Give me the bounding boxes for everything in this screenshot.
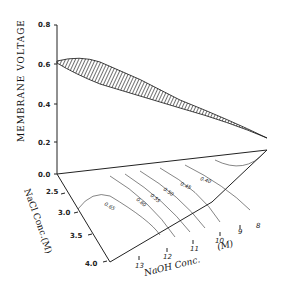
nacl-unit: (M): [39, 236, 54, 255]
svg-text:0.45: 0.45: [180, 180, 193, 190]
svg-text:0.0: 0.0: [38, 171, 51, 179]
svg-text:0.8: 0.8: [38, 21, 51, 29]
z-ticks: 0.8 0.6 0.4 0.2 0.0: [38, 21, 57, 179]
svg-text:0.55: 0.55: [149, 192, 161, 204]
svg-text:9: 9: [238, 228, 243, 236]
surface-plot: 0.8 0.6 0.4 0.2 0.0 MEMBRANE VOLTAGE 2.5…: [0, 0, 287, 289]
base-plane: [57, 150, 267, 262]
svg-text:0.50: 0.50: [162, 186, 175, 197]
svg-text:8: 8: [256, 222, 261, 230]
svg-text:3.5: 3.5: [70, 232, 83, 240]
nacl-ticks: 2.5 3.0 3.5 4.0: [46, 188, 107, 268]
svg-text:0.60: 0.60: [135, 196, 147, 208]
svg-text:4.0: 4.0: [85, 260, 98, 268]
z-axis-label: MEMBRANE VOLTAGE: [16, 19, 26, 142]
svg-text:12: 12: [163, 253, 172, 261]
svg-text:0.2: 0.2: [38, 139, 51, 147]
svg-text:0.6: 0.6: [38, 61, 51, 69]
svg-text:0.40: 0.40: [200, 175, 212, 184]
svg-text:11: 11: [190, 245, 199, 253]
svg-text:0.65: 0.65: [104, 201, 117, 212]
svg-text:3.0: 3.0: [58, 209, 71, 217]
surface-mesh: [57, 58, 267, 138]
svg-text:2.5: 2.5: [46, 188, 59, 196]
svg-text:0.4: 0.4: [38, 101, 51, 109]
